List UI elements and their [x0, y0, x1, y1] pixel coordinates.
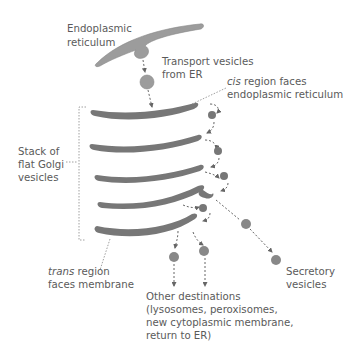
- cisterna-arrow: [203, 213, 210, 221]
- destination-arrow: [175, 231, 178, 248]
- other-destinations-label: return to ER): [146, 330, 211, 341]
- shuttle-vesicle: [220, 172, 228, 180]
- secretory-arrow: [216, 200, 240, 220]
- golgi-cisterna-3: [95, 165, 204, 183]
- stack-label: vesicles: [18, 172, 58, 183]
- other-destinations-label: (lysosomes, peroxisomes,: [146, 304, 278, 315]
- secretory-vesicle: [241, 219, 251, 229]
- cisterna-arrow: [205, 140, 216, 149]
- stack-label: flat Golgi: [18, 159, 64, 170]
- golgi-cisterna-5: [95, 213, 198, 236]
- transport-label: Transport vesicles: [161, 56, 253, 67]
- secretory-vesicle: [271, 255, 281, 265]
- transport-label: from ER: [162, 69, 202, 80]
- secretory-arrow: [250, 229, 272, 252]
- golgi-cisterna-1: [91, 103, 199, 120]
- stack-label: Stack of: [18, 146, 60, 157]
- shuttle-vesicle: [208, 111, 216, 119]
- trans-label: trans region: [48, 266, 110, 277]
- cisterna-arrow: [207, 122, 214, 133]
- transport-vesicle: [140, 75, 154, 89]
- other-destinations-label: Other destinations: [146, 291, 241, 302]
- destination-vesicle: [199, 246, 209, 256]
- other-destinations-label: new cytoplasmic membrane,: [146, 317, 294, 328]
- trans-label: faces membrane: [48, 279, 134, 290]
- er-label: reticulum: [67, 37, 115, 48]
- stack-bracket: [79, 107, 86, 240]
- secretory-label: vesicles: [286, 279, 326, 290]
- shuttle-vesicle: [199, 204, 207, 212]
- cis-label: endoplasmic reticulum: [227, 89, 343, 100]
- er-label: Endoplasmic: [67, 23, 132, 34]
- bud-arrow: [143, 60, 145, 72]
- cisterna-arrow: [205, 172, 219, 178]
- shuttle-vesicle: [214, 147, 222, 155]
- cisterna-arrow: [211, 158, 219, 167]
- golgi-cisterna-2: [90, 135, 202, 153]
- cis-label: cis region faces: [227, 76, 306, 87]
- golgi-diagram: Endoplasmic reticulum Transport vesicles…: [0, 0, 347, 349]
- golgi-cisterna-4: [98, 185, 214, 209]
- destination-vesicle: [169, 252, 179, 262]
- transport-arrow: [148, 90, 152, 107]
- secretory-label: Secretory: [286, 266, 335, 277]
- cisterna-arrow: [183, 205, 199, 208]
- cisterna-arrow: [221, 183, 228, 191]
- destination-arrow: [193, 232, 203, 245]
- cis-leader: [192, 88, 226, 104]
